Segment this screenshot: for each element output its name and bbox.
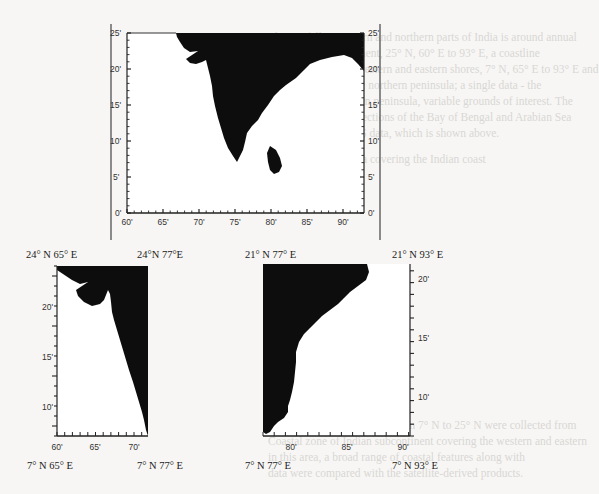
x-tick-label: 60' <box>51 442 62 452</box>
x-tick-label: 65' <box>89 442 100 452</box>
y-tick-label: 15' <box>418 333 429 343</box>
x-tick-label: 90' <box>337 217 348 227</box>
y-tick-label: 10' <box>418 392 429 402</box>
x-tick-label: 80' <box>285 442 296 452</box>
y-tick-label: 20' <box>368 64 379 74</box>
y-tick-label: 20' <box>418 274 429 284</box>
x-tick-label: 85' <box>301 217 312 227</box>
x-tick-label: 60' <box>121 217 132 227</box>
y-tick-label: 10' <box>110 136 121 146</box>
west-bottom-left-label: 7° N 65° E <box>27 460 73 471</box>
y-tick-label: 5' <box>368 172 375 182</box>
x-tick-label: 75' <box>229 217 240 227</box>
x-tick-label: 70' <box>193 217 204 227</box>
map-top-india <box>111 24 380 240</box>
west-top-right-label: 24°N 77°E <box>137 249 183 260</box>
east-top-right-label: 21° N 93° E <box>392 249 443 260</box>
east-bottom-right-label: 7° N 93° E <box>392 460 438 471</box>
x-tick-label: 85' <box>341 442 352 452</box>
y-tick-label: 15' <box>368 100 379 110</box>
map-east-coast <box>263 264 414 436</box>
east-top-left-label: 21° N 77° E <box>245 249 296 260</box>
y-tick-label: 10' <box>368 136 379 146</box>
y-tick-label: 20' <box>110 64 121 74</box>
y-tick-label: 15' <box>42 352 53 362</box>
y-tick-label: 20' <box>42 302 53 312</box>
west-top-left-label: 24° N 65° E <box>26 249 77 260</box>
y-tick-label: 5' <box>113 172 120 182</box>
map-west-coast <box>52 266 148 436</box>
x-tick-label: 80' <box>265 217 276 227</box>
x-tick-label: 65' <box>157 217 168 227</box>
west-bottom-right-label: 7° N 77° E <box>137 460 183 471</box>
y-tick-label: 10' <box>42 402 53 412</box>
east-bottom-left-label: 7° N 77° E <box>245 460 291 471</box>
y-tick-label: 25' <box>368 28 379 38</box>
x-tick-label: 90' <box>397 442 408 452</box>
y-tick-label: 0' <box>368 208 375 218</box>
x-tick-label: 70' <box>128 442 139 452</box>
y-tick-label: 15' <box>110 100 121 110</box>
y-tick-label: 25' <box>110 28 121 38</box>
